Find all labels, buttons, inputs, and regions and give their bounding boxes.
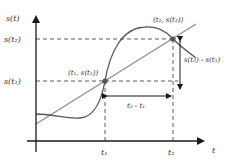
y-tick-s-t1: s(t₁) xyxy=(4,77,21,86)
s-difference-label: s(t₂) - s(t₁) xyxy=(184,56,220,64)
diagram-canvas: s(t) t s(t₂) s(t₁) t₁ t₂ (t₁, s(t₁)) (t₂… xyxy=(0,0,236,162)
point-t2 xyxy=(170,36,175,41)
dashed-guides xyxy=(36,39,178,141)
y-tick-s-t2: s(t₂) xyxy=(4,35,21,44)
point-label-t1: (t₁, s(t₁)) xyxy=(68,69,98,77)
t-difference-label: t₂ - t₁ xyxy=(127,102,145,110)
x-axis-label: t xyxy=(212,146,216,155)
x-tick-t2: t₂ xyxy=(168,148,174,157)
point-t1 xyxy=(102,78,107,83)
point-label-t2: (t₂, s(t₂)) xyxy=(153,16,183,24)
y-axis-label: s(t) xyxy=(6,14,20,23)
x-tick-t1: t₁ xyxy=(101,148,107,157)
